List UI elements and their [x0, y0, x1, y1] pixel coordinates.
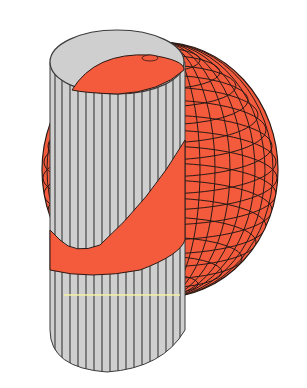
cylinder	[50, 30, 185, 380]
sphere-cylinder-diagram	[0, 0, 307, 388]
figure-canvas	[0, 0, 307, 388]
